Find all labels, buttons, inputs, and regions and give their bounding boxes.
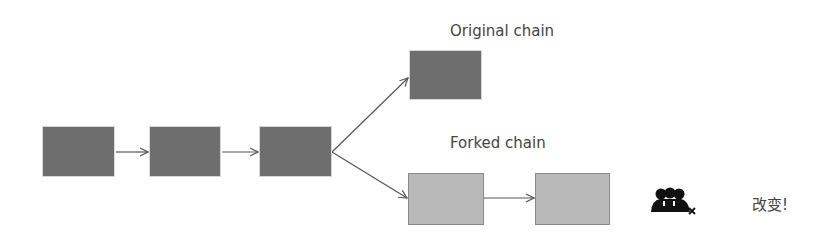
- block-3: [259, 126, 332, 177]
- forked-chain-block-1: [408, 173, 484, 225]
- original-chain-label: Original chain: [450, 22, 554, 40]
- group-of-people-with-x-icon: [648, 186, 698, 216]
- change-label: 改变!: [752, 193, 788, 214]
- forked-chain-block-2: [535, 173, 610, 225]
- forked-chain-label: Forked chain: [450, 134, 546, 152]
- arrow-to-fork: [332, 152, 407, 198]
- block-2: [149, 126, 221, 177]
- original-chain-block: [409, 50, 482, 100]
- block-1: [42, 126, 115, 177]
- arrow-to-original: [332, 78, 408, 152]
